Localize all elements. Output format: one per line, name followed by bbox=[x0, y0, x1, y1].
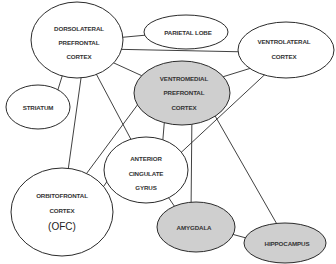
node-vlc-label-1: VENTROLATERAL bbox=[258, 38, 311, 45]
node-ofc-label-1: ORBITOFRONTAL bbox=[36, 192, 88, 199]
node-dlpfc-label-1: DORSOLATERAL bbox=[54, 25, 104, 32]
node-dlpfc-label-3: CORTEX bbox=[66, 53, 92, 60]
edge-dlpfc-vlc bbox=[104, 49, 251, 52]
brain-connectivity-diagram: DORSOLATERAL PREFRONTAL CORTEX PARIETAL … bbox=[0, 0, 336, 264]
node-vmpfc-label-1: VENTROMEDIAL bbox=[160, 75, 209, 82]
node-vmpfc-label-2: PREFRONTAL bbox=[164, 89, 205, 96]
node-vmpfc-label-3: CORTEX bbox=[171, 104, 197, 111]
node-hippocampus: HIPPOCAMPUS bbox=[244, 223, 326, 263]
node-vmpfc: VENTROMEDIAL PREFRONTAL CORTEX bbox=[134, 61, 230, 125]
node-acg-label-1: ANTERIOR bbox=[130, 155, 162, 162]
node-hippocampus-label: HIPPOCAMPUS bbox=[265, 240, 310, 247]
node-dlpfc-label-2: PREFRONTAL bbox=[59, 39, 100, 46]
node-ventrolateral-cortex: VENTROLATERAL CORTEX bbox=[238, 22, 334, 78]
node-parietal-label: PARIETAL LOBE bbox=[164, 29, 212, 36]
node-parietal-lobe: PARIETAL LOBE bbox=[144, 15, 228, 49]
node-amygdala: AMYGDALA bbox=[157, 202, 235, 252]
node-striatum: STRIATUM bbox=[6, 85, 70, 129]
node-anterior-cingulate-gyrus: ANTERIOR CINGULATE GYRUS bbox=[104, 137, 188, 203]
node-vlc-label-2: CORTEX bbox=[271, 53, 297, 60]
node-acg-label-3: GYRUS bbox=[135, 184, 157, 191]
node-dlpfc: DORSOLATERAL PREFRONTAL CORTEX bbox=[31, 2, 123, 78]
node-ofc-label-2: CORTEX bbox=[49, 207, 75, 214]
node-striatum-label: STRIATUM bbox=[23, 104, 54, 111]
node-amygdala-label: AMYGDALA bbox=[177, 224, 213, 231]
edge-dlpfc-acg bbox=[92, 66, 135, 147]
node-orbitofrontal-cortex: ORBITOFRONTAL CORTEX (OFC) bbox=[11, 168, 113, 256]
node-acg-label-2: CINGULATE bbox=[129, 170, 164, 177]
node-ofc-label-3: (OFC) bbox=[48, 221, 76, 232]
